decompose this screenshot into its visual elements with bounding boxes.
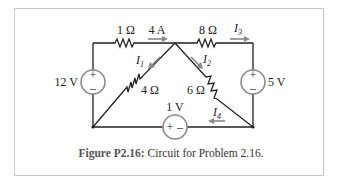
source-1v-minus: –	[176, 120, 184, 134]
resistor-8ohm-wire	[175, 39, 253, 47]
source-1v-label: 1 V	[166, 100, 184, 114]
source-12v-label: 12 V	[55, 75, 79, 89]
caption-label: Figure P2.16:	[78, 147, 144, 159]
resistor-4ohm-label: 4 Ω	[141, 83, 159, 97]
current-4a-label: 4 A	[148, 23, 165, 37]
source-12v-minus: –	[89, 81, 97, 95]
source-5v-label: 5 V	[268, 75, 286, 89]
circuit-diagram: + – + – + – 12 V 5 V 1 V 1 Ω 8 Ω 4 Ω 6 Ω…	[0, 0, 342, 194]
current-i2-label: I2	[202, 52, 211, 68]
resistor-1ohm-label: 1 Ω	[117, 23, 135, 37]
resistor-8ohm-label: 8 Ω	[199, 23, 217, 37]
current-i4-label: I4	[212, 105, 221, 121]
source-5v-plus: +	[250, 68, 257, 82]
current-i3-label: I3	[233, 21, 242, 37]
figure-caption: Figure P2.16: Circuit for Problem 2.16.	[0, 147, 342, 159]
current-i1-label: I1	[135, 53, 144, 69]
source-1v-plus: +	[167, 120, 174, 134]
source-12v-plus: +	[90, 68, 97, 82]
source-5v-minus: –	[249, 81, 257, 95]
resistor-6ohm-label: 6 Ω	[187, 83, 205, 97]
caption-text: Circuit for Problem 2.16.	[145, 147, 264, 159]
